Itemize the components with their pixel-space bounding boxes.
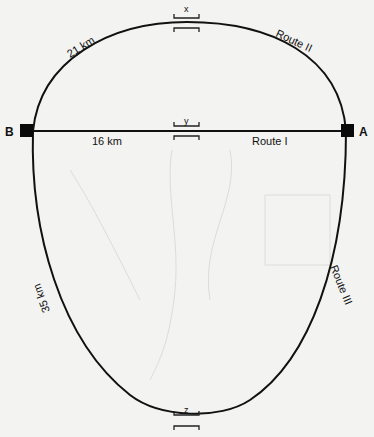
route-2-distance-label: 21 km xyxy=(65,34,97,60)
route-diagram: B A x y z 21 km Route II 16 km Route I 3… xyxy=(0,0,374,437)
route-1-name-label: Route I xyxy=(252,135,287,147)
route-3-distance-label: 35 km xyxy=(30,282,52,314)
node-a-marker[interactable] xyxy=(341,124,354,137)
route-3-path xyxy=(33,131,346,414)
route-1-distance-label: 16 km xyxy=(92,135,122,147)
node-b-marker[interactable] xyxy=(20,124,33,137)
route-2-name-label: Route II xyxy=(274,27,314,54)
marker-x-label: x xyxy=(184,4,189,14)
node-a-label: A xyxy=(359,125,368,139)
route-3-name-label: Route III xyxy=(328,263,355,306)
marker-z-label: z xyxy=(184,405,189,415)
marker-z: z xyxy=(174,405,199,430)
background-texture xyxy=(70,150,330,380)
marker-y-label: y xyxy=(184,116,189,126)
marker-x: x xyxy=(174,4,199,32)
marker-y: y xyxy=(174,116,199,140)
node-b-label: B xyxy=(5,125,14,139)
